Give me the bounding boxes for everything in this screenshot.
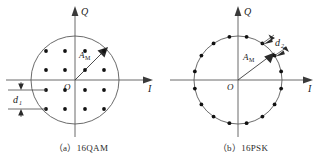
i-axis-label-psk: I <box>307 83 312 94</box>
amplitude-label-psk: A M <box>242 52 255 63</box>
constellation-dot <box>279 70 283 74</box>
panel-16psk: Q I O A M d 2 （b）16PSK <box>162 0 324 168</box>
constellation-dot <box>44 68 48 72</box>
amplitude-label-sub: M <box>249 57 255 63</box>
i-axis-label-qam: I <box>147 83 152 94</box>
psk-svg: Q I O A M d 2 <box>162 0 324 148</box>
q-axis-qam <box>72 6 79 137</box>
constellation-dot <box>102 88 106 92</box>
constellation-dot <box>212 42 216 46</box>
constellation-dot <box>63 68 67 72</box>
d1-label-qam: d 1 <box>13 94 22 106</box>
constellation-dot <box>83 88 87 92</box>
i-axis-qam <box>6 77 153 84</box>
constellation-dot <box>44 49 48 53</box>
figure-container: Q I O A M d 1 （a）16QAM <box>0 0 324 168</box>
amplitude-label-sub: M <box>85 55 91 61</box>
constellation-dot <box>193 70 197 74</box>
constellation-dot <box>261 115 265 119</box>
constellation-dot <box>200 103 204 107</box>
constellation-dot <box>228 121 232 125</box>
constellation-dot <box>63 49 67 53</box>
origin-label-qam: O <box>64 82 71 92</box>
constellation-dot <box>212 115 216 119</box>
q-axis-label-psk: Q <box>244 6 252 17</box>
qam-svg: Q I O A M d 1 <box>0 0 162 148</box>
q-axis-psk <box>235 6 242 137</box>
d2-label-psk: d 2 <box>275 37 284 49</box>
constellation-dot <box>83 107 87 111</box>
q-axis-label-qam: Q <box>81 6 89 17</box>
constellation-dot <box>63 107 67 111</box>
d2-label-sub: 2 <box>281 43 284 49</box>
constellation-dot <box>245 121 249 125</box>
constellation-dot <box>102 49 106 53</box>
constellation-dot <box>228 35 232 39</box>
constellation-dot <box>273 103 277 107</box>
panel-16qam-plot: Q I O A M d 1 <box>0 0 162 148</box>
amplitude-label-text: A <box>78 50 85 60</box>
constellation-dot <box>245 35 249 39</box>
d1-label-sub: 1 <box>19 100 22 106</box>
constellation-dot <box>102 68 106 72</box>
panel-16psk-plot: Q I O A M d 2 <box>162 0 324 148</box>
constellation-dot <box>193 87 197 91</box>
constellation-dot <box>102 107 106 111</box>
caption-16psk: （b）16PSK <box>162 141 324 154</box>
amplitude-label-text: A <box>242 52 249 62</box>
panel-16qam: Q I O A M d 1 （a）16QAM <box>0 0 162 168</box>
constellation-dot <box>83 68 87 72</box>
origin-label-psk: O <box>227 82 234 92</box>
constellation-dot <box>200 54 204 58</box>
constellation-dot <box>279 87 283 91</box>
caption-16qam: （a）16QAM <box>0 141 162 154</box>
